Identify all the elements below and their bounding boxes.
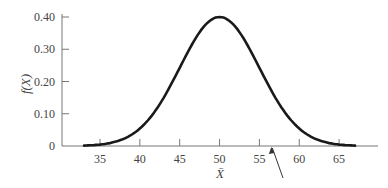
x-tick-label: 55 (253, 152, 265, 166)
x-tick-label: 40 (134, 152, 146, 166)
y-tick-label: 0.30 (34, 42, 55, 56)
x-axis-title: X̄ (215, 166, 225, 181)
x-tick-label: 45 (174, 152, 186, 166)
y-tick-label: 0.40 (34, 10, 55, 24)
density-curve (84, 17, 355, 146)
y-axis-title: f(X) (18, 74, 33, 94)
x-tick-label: 65 (333, 152, 345, 166)
y-tick-label: 0.10 (34, 107, 55, 121)
density-curve-path (84, 17, 355, 146)
y-tick-label: 0.20 (34, 75, 55, 89)
x-tick-label: 50 (214, 152, 226, 166)
x-tick-label: 35 (94, 152, 106, 166)
normal-distribution-chart: 00.100.200.300.4035404550556065 f(X) X̄ (0, 0, 388, 188)
y-tick-label: 0 (49, 139, 55, 153)
annotation-arrow (269, 147, 283, 178)
x-tick-label: 60 (293, 152, 305, 166)
